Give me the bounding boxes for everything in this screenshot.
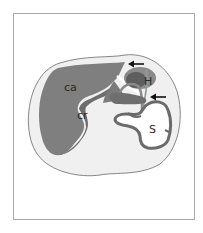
label-H: H bbox=[144, 75, 152, 88]
label-cr: cr bbox=[77, 109, 88, 122]
label-ca: ca bbox=[64, 81, 77, 94]
label-S: S bbox=[149, 123, 156, 136]
cross-section-diagram: ca cr H S bbox=[0, 0, 203, 233]
